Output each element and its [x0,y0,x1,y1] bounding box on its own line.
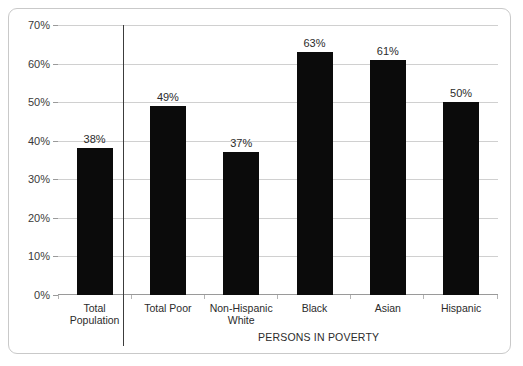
ytick-mark-70 [53,25,58,26]
bar-total-population[interactable]: 38% Total Population [77,148,113,295]
category-label-line-1: Non-Hispanic [210,302,273,314]
y-axis-label-60: 60% [28,58,50,69]
category-label-black: Black [302,302,328,314]
xtick-mark-2 [204,295,205,299]
chart-frame: 70% 60% 50% 40% 30% 20% 10% 0% 38% [8,8,511,354]
gridline-70 [58,25,498,26]
gridline-60 [58,64,498,65]
xtick-mark-5 [423,295,424,299]
xtick-mark-0 [58,295,59,299]
category-label-line-1: Hispanic [441,302,481,314]
bar-value-total-poor: 49% [157,92,179,103]
category-label-line-1: Total [70,302,120,314]
plot-area: 70% 60% 50% 40% 30% 20% 10% 0% 38% [58,25,498,295]
bar-value-non-hispanic-white: 37% [230,138,252,149]
category-label-total-population: Total Population [70,302,120,326]
ytick-mark-20 [53,218,58,219]
bar-value-asian: 61% [377,46,399,57]
gridline-10 [58,256,498,257]
gridline-30 [58,179,498,180]
group-separator-line [123,25,124,346]
category-label-line-2: Population [70,314,120,326]
ytick-mark-10 [53,256,58,257]
y-axis-label-10: 10% [28,251,50,262]
y-axis-label-0: 0% [34,290,50,301]
gridline-50 [58,102,498,103]
category-label-line-2: White [210,314,273,326]
ytick-mark-50 [53,102,58,103]
xtick-mark-1 [131,295,132,299]
ytick-mark-60 [53,64,58,65]
bar-black[interactable]: 63% Black [297,52,333,295]
gridline-20 [58,218,498,219]
y-axis-label-40: 40% [28,135,50,146]
bar-value-total-population: 38% [84,134,106,145]
bar-value-black: 63% [303,38,325,49]
x-axis-line [58,294,498,295]
category-label-line-1: Total Poor [144,302,191,314]
gridline-40 [58,141,498,142]
bar-asian[interactable]: 61% Asian [370,60,406,295]
category-label-line-1: Asian [375,302,401,314]
ytick-mark-40 [53,141,58,142]
y-axis-label-50: 50% [28,97,50,108]
bar-total-poor[interactable]: 49% Total Poor [150,106,186,295]
x-axis-title: PERSONS IN POVERTY [258,331,379,343]
xtick-mark-6 [497,295,498,299]
category-label-non-hispanic-white: Non-Hispanic White [210,302,273,326]
y-axis-label-20: 20% [28,212,50,223]
xtick-mark-3 [277,295,278,299]
bar-non-hispanic-white[interactable]: 37% Non-Hispanic White [223,152,259,295]
ytick-mark-30 [53,179,58,180]
category-label-line-1: Black [302,302,328,314]
bar-value-hispanic: 50% [450,88,472,99]
category-label-asian: Asian [375,302,401,314]
bar-hispanic[interactable]: 50% Hispanic [443,102,479,295]
category-label-total-poor: Total Poor [144,302,191,314]
y-axis-label-70: 70% [28,20,50,31]
xtick-mark-4 [350,295,351,299]
y-axis-label-30: 30% [28,174,50,185]
category-label-hispanic: Hispanic [441,302,481,314]
